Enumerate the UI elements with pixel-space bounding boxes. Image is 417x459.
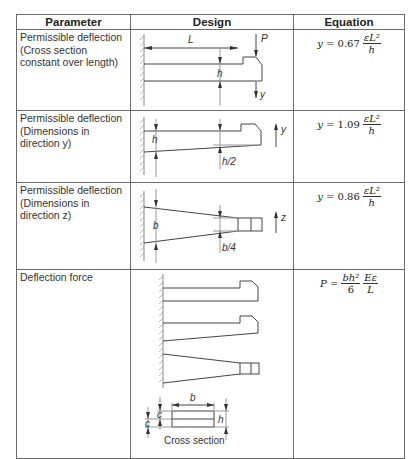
fraction: εL²h	[363, 32, 381, 55]
height-label: h	[152, 134, 158, 145]
width-label: b	[190, 392, 196, 403]
parameter-line: direction y)	[20, 137, 130, 150]
numerator: εL²	[363, 185, 381, 197]
equals-sign: =	[326, 38, 334, 49]
width-label: b	[153, 220, 159, 231]
numerator: bh²	[341, 272, 360, 284]
parameter-cell: Deflection force	[17, 270, 131, 459]
table-row: Permissible deflection (Dimensions in di…	[17, 111, 405, 183]
cross-section-caption: Cross section	[164, 435, 225, 446]
parameter-line: constant over length)	[20, 56, 130, 69]
height-label: h	[217, 68, 223, 79]
parameter-line: Permissible deflection	[20, 31, 130, 44]
parameter-line: direction z)	[20, 209, 130, 222]
equation-permissible-deflection-y: y = 1.09 εL²h	[317, 113, 381, 136]
c-top-label: c	[157, 409, 162, 420]
table-row: Permissible deflection (Dimensions in di…	[17, 183, 405, 270]
header-row: Parameter Design Equation	[17, 15, 405, 30]
fraction: EεL	[363, 272, 378, 295]
parameter-line: (Dimensions in	[20, 125, 130, 138]
equation-deflection-force: P = bh²6 EεL	[320, 272, 378, 295]
numerator: εL²	[363, 32, 381, 44]
design-cell: b c c h Cross section	[131, 270, 294, 459]
table-row: Permissible deflection (Cross section co…	[17, 30, 405, 111]
denominator: 6	[348, 284, 354, 295]
parameter-cell: Permissible deflection (Dimensions in di…	[17, 183, 131, 270]
header-parameter: Parameter	[17, 15, 131, 30]
deflection-label: y	[280, 124, 287, 135]
coefficient: 1.09	[338, 119, 360, 130]
equation-cell: P = bh²6 EεL	[294, 270, 405, 459]
design-cell: b b/4 z	[131, 183, 294, 270]
quarter-width-label: b/4	[222, 242, 236, 253]
denominator: L	[367, 284, 374, 295]
half-height-label: h/2	[222, 156, 236, 167]
equation-permissible-deflection-constant: y = 0.67 εL²h	[317, 32, 381, 55]
parameter-line: Deflection force	[20, 271, 130, 284]
equation-lhs: P	[320, 278, 327, 289]
c-bottom-label: c	[145, 418, 150, 429]
snap-fit-design-table: Parameter Design Equation Permissible de…	[16, 14, 405, 459]
tapered-z-beam-diagram: b b/4 z	[131, 183, 294, 265]
deflection-label: z	[280, 212, 286, 223]
equals-sign: =	[330, 278, 338, 289]
height-label: h	[218, 414, 224, 425]
fraction: εL²h	[363, 113, 381, 136]
numerator: εL²	[363, 113, 381, 125]
equals-sign: =	[326, 191, 334, 202]
denominator: h	[369, 125, 375, 136]
equation-lhs: y	[317, 119, 323, 130]
deflection-label: y	[259, 89, 266, 100]
constant-section-beam-diagram: L P h y	[131, 30, 294, 106]
equation-cell: y = 0.86 εL²h	[294, 183, 405, 270]
fraction: εL²h	[363, 185, 381, 208]
equation-permissible-deflection-z: y = 0.86 εL²h	[317, 185, 381, 208]
parameter-line: Permissible deflection	[20, 112, 130, 125]
equation-cell: y = 1.09 εL²h	[294, 111, 405, 183]
design-cell: h h/2 y	[131, 111, 294, 183]
force-label: P	[261, 33, 268, 44]
parameter-line: (Cross section	[20, 44, 130, 57]
header-equation: Equation	[294, 15, 405, 30]
coefficient: 0.67	[338, 38, 360, 49]
coefficient: 0.86	[338, 191, 360, 202]
fraction: bh²6	[341, 272, 360, 295]
equation-lhs: y	[317, 191, 323, 202]
parameter-cell: Permissible deflection (Dimensions in di…	[17, 111, 131, 183]
equation-lhs: y	[317, 38, 323, 49]
denominator: h	[369, 44, 375, 55]
parameter-cell: Permissible deflection (Cross section co…	[17, 30, 131, 111]
equals-sign: =	[326, 119, 334, 130]
numerator: Eε	[363, 272, 378, 284]
table-row: Deflection force	[17, 270, 405, 459]
deflection-force-diagram: b c c h Cross section	[131, 270, 294, 454]
parameter-line: (Dimensions in	[20, 197, 130, 210]
length-label: L	[188, 34, 194, 45]
design-cell: L P h y	[131, 30, 294, 111]
denominator: h	[369, 197, 375, 208]
equation-cell: y = 0.67 εL²h	[294, 30, 405, 111]
header-design: Design	[131, 15, 294, 30]
parameter-line: Permissible deflection	[20, 184, 130, 197]
tapered-y-beam-diagram: h h/2 y	[131, 111, 294, 178]
